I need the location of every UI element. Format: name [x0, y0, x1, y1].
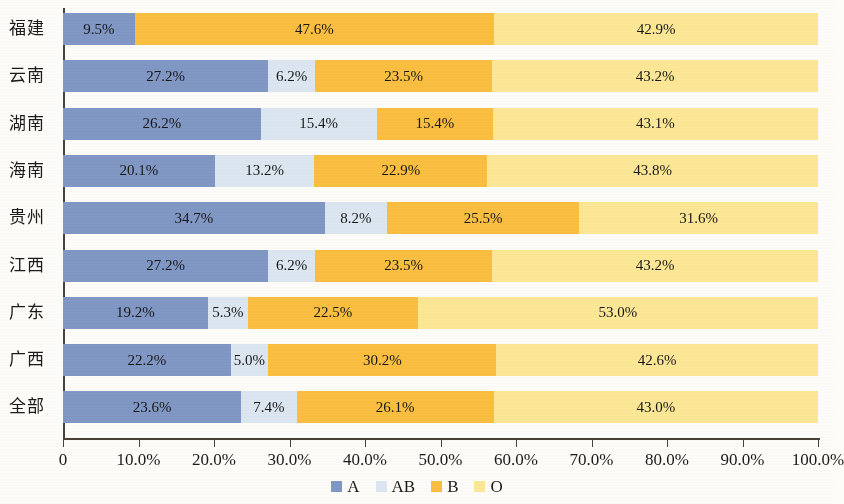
x-axis-tick-label: 100.0% [792, 450, 844, 470]
category-label: 海南 [0, 162, 55, 179]
bar-segment-ab: 15.4% [261, 108, 377, 140]
bar-segment-value-label: 42.6% [638, 352, 677, 369]
x-axis-tick [667, 440, 668, 447]
x-axis-line [63, 438, 820, 440]
bar-segment-value-label: 43.2% [636, 257, 675, 274]
legend-label: B [447, 478, 458, 495]
bar-segment-value-label: 6.2% [276, 257, 307, 274]
x-axis-tick-label: 60.0% [494, 450, 538, 470]
legend-swatch-icon [431, 481, 442, 492]
x-axis-tick [441, 440, 442, 447]
bar-segment-a: 20.1% [63, 155, 215, 187]
bar-segment-o: 42.6% [496, 344, 818, 376]
bar-segment-o: 43.2% [492, 250, 818, 282]
bar-row: 20.1%13.2%22.9%43.8% [63, 155, 818, 187]
bar-segment-value-label: 22.2% [127, 352, 166, 369]
category-label: 江西 [0, 257, 55, 274]
bar-segment-value-label: 15.4% [299, 115, 338, 132]
bar-segment-value-label: 23.5% [384, 257, 423, 274]
bar-segment-value-label: 5.3% [212, 304, 243, 321]
bar-segment-value-label: 43.0% [636, 399, 675, 416]
x-axis-tick [818, 440, 819, 447]
bar-segment-value-label: 26.1% [376, 399, 415, 416]
legend-label: A [347, 478, 359, 495]
bar-segment-ab: 6.2% [268, 250, 315, 282]
category-axis-labels: 福建云南湖南海南贵州江西广东广西全部 [0, 0, 63, 440]
category-label: 全部 [0, 398, 55, 415]
bar-segment-value-label: 22.9% [381, 162, 420, 179]
legend-label: AB [392, 478, 416, 495]
bar-row: 19.2%5.3%22.5%53.0% [63, 297, 818, 329]
category-label: 广东 [0, 304, 55, 321]
chart-legend: AABBO [0, 478, 834, 495]
bar-segment-value-label: 20.1% [120, 162, 159, 179]
bar-segment-value-label: 23.6% [133, 399, 172, 416]
bar-segment-a: 26.2% [63, 108, 261, 140]
bar-row: 22.2%5.0%30.2%42.6% [63, 344, 818, 376]
bar-segment-a: 19.2% [63, 297, 208, 329]
x-axis-tick [365, 440, 366, 447]
bar-segment-value-label: 43.1% [636, 115, 675, 132]
legend-swatch-icon [331, 481, 342, 492]
legend-label: O [490, 478, 502, 495]
bar-segment-value-label: 7.4% [253, 399, 284, 416]
bar-segment-value-label: 23.5% [384, 68, 423, 85]
category-label: 贵州 [0, 209, 55, 226]
legend-item-a[interactable]: A [331, 478, 359, 495]
bar-segment-value-label: 22.5% [314, 304, 353, 321]
legend-swatch-icon [474, 481, 485, 492]
category-label: 云南 [0, 67, 55, 84]
x-axis-tick [139, 440, 140, 447]
bar-segment-value-label: 27.2% [146, 257, 185, 274]
bar-segment-value-label: 30.2% [363, 352, 402, 369]
bar-segment-value-label: 27.2% [146, 68, 185, 85]
bar-segment-a: 23.6% [63, 391, 241, 423]
x-axis-tick-label: 0 [59, 450, 68, 470]
bar-segment-a: 9.5% [63, 13, 135, 45]
x-axis-tick [592, 440, 593, 447]
bar-segment-b: 47.6% [135, 13, 494, 45]
bar-segment-o: 42.9% [494, 13, 818, 45]
bar-row: 27.2%6.2%23.5%43.2% [63, 250, 818, 282]
bar-segment-o: 43.1% [493, 108, 818, 140]
bar-segment-a: 27.2% [63, 60, 268, 92]
bar-segment-value-label: 31.6% [679, 210, 718, 227]
x-axis-tick-label: 70.0% [570, 450, 614, 470]
bar-segment-b: 23.5% [315, 60, 492, 92]
bar-segment-ab: 5.3% [208, 297, 248, 329]
bar-segment-a: 27.2% [63, 250, 268, 282]
category-label: 湖南 [0, 115, 55, 132]
bar-segment-b: 26.1% [297, 391, 494, 423]
legend-swatch-icon [376, 481, 387, 492]
x-axis-tick-label: 10.0% [117, 450, 161, 470]
x-axis-tick-label: 20.0% [192, 450, 236, 470]
x-axis-tick-label: 50.0% [419, 450, 463, 470]
legend-item-ab[interactable]: AB [376, 478, 416, 495]
bar-segment-b: 30.2% [268, 344, 496, 376]
bar-row: 34.7%8.2%25.5%31.6% [63, 202, 818, 234]
x-axis-tick-label: 30.0% [268, 450, 312, 470]
bar-segment-o: 43.8% [487, 155, 818, 187]
bar-segment-ab: 5.0% [231, 344, 269, 376]
bar-row: 27.2%6.2%23.5%43.2% [63, 60, 818, 92]
bar-segment-b: 23.5% [315, 250, 492, 282]
bar-segment-b: 22.5% [248, 297, 418, 329]
bar-segment-b: 22.9% [314, 155, 487, 187]
category-label: 福建 [0, 20, 55, 37]
bar-segment-value-label: 13.2% [245, 162, 284, 179]
bar-segment-o: 43.0% [494, 391, 818, 423]
bar-segment-value-label: 34.7% [175, 210, 214, 227]
bar-segment-b: 25.5% [387, 202, 580, 234]
bar-segment-value-label: 43.2% [636, 68, 675, 85]
x-axis-tick [63, 440, 64, 447]
bar-segment-value-label: 9.5% [83, 21, 114, 38]
legend-item-b[interactable]: B [431, 478, 458, 495]
bar-segment-o: 53.0% [418, 297, 818, 329]
bar-segment-value-label: 5.0% [234, 352, 265, 369]
bar-segment-value-label: 25.5% [464, 210, 503, 227]
bar-segment-b: 15.4% [377, 108, 493, 140]
legend-item-o[interactable]: O [474, 478, 502, 495]
bar-segment-ab: 13.2% [215, 155, 315, 187]
bar-segment-o: 31.6% [579, 202, 818, 234]
